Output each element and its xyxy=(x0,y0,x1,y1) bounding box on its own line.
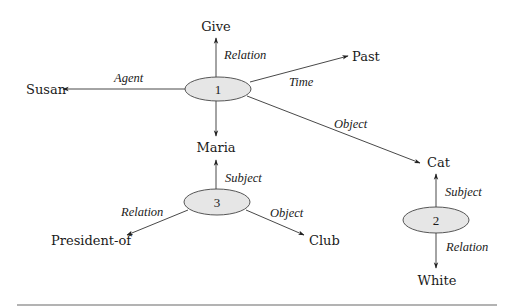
edge-1-to-susan: Agent xyxy=(63,71,185,89)
semantic-network-diagram: RelationTimeAgentObjectSubjectRelationOb… xyxy=(0,0,512,308)
term-past: Past xyxy=(352,49,381,64)
edge-label: Subject xyxy=(445,185,482,199)
edge-2-to-white: Relation xyxy=(436,233,488,268)
node-id-label: 1 xyxy=(215,82,222,97)
term-white: White xyxy=(418,273,457,288)
edge-label: Object xyxy=(270,206,304,220)
node-id-label: 3 xyxy=(214,195,221,210)
edge-label: Agent xyxy=(113,71,144,85)
term-president-of: President-of xyxy=(51,233,132,248)
term-susan: Susan xyxy=(26,82,67,97)
node-2: 2 xyxy=(403,207,469,233)
edge-label: Time xyxy=(289,75,314,89)
edge-1-to-cat: Object xyxy=(247,96,420,163)
edge-3-to-maria: Subject xyxy=(216,160,262,189)
edge-label: Relation xyxy=(445,240,488,254)
term-club: Club xyxy=(309,233,340,248)
term-give: Give xyxy=(201,19,231,34)
edge-2-to-cat: Subject xyxy=(436,174,482,207)
edge-label: Relation xyxy=(120,205,163,219)
edge-label: Subject xyxy=(225,171,262,185)
edge-3-to-president-of: Relation xyxy=(120,205,188,235)
node-3: 3 xyxy=(184,189,250,215)
node-1: 1 xyxy=(185,77,251,101)
edge-1-to-give: Relation xyxy=(216,38,266,77)
term-maria: Maria xyxy=(196,140,235,155)
term-cat: Cat xyxy=(427,155,451,170)
edge-label: Object xyxy=(334,117,368,131)
node-id-label: 2 xyxy=(433,213,440,228)
edge-label: Relation xyxy=(223,48,266,62)
edge-3-to-club: Object xyxy=(246,206,304,235)
